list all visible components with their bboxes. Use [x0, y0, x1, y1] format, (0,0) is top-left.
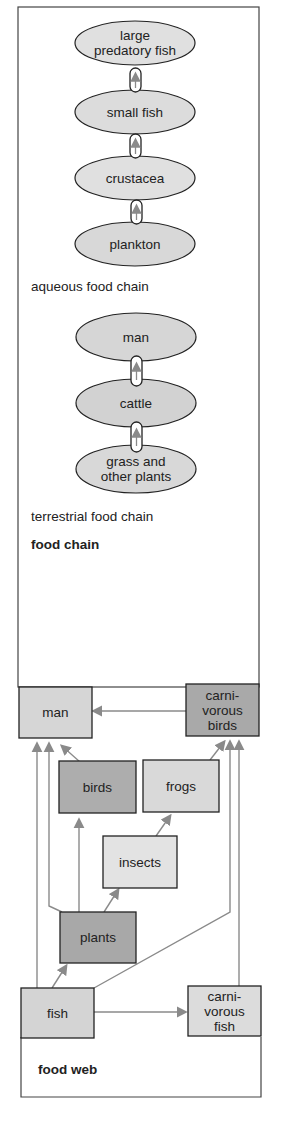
label-carnivorous-birds: carni- vorous birds [186, 684, 259, 736]
label-cattle: cattle [76, 379, 196, 427]
title-food-web: food web [38, 1062, 97, 1077]
label-birds: birds [59, 761, 136, 813]
label-plankton: plankton [75, 222, 195, 266]
title-food-chain: food chain [31, 537, 99, 552]
caption-aqueous: aqueous food chain [31, 279, 149, 294]
label-fish: fish [21, 988, 94, 1038]
label-grass: grass and other plants [76, 445, 196, 493]
label-man-chain: man [76, 313, 196, 361]
label-man: man [19, 687, 92, 738]
label-frogs: frogs [143, 760, 219, 812]
label-small-fish: small fish [75, 90, 195, 134]
label-insects: insects [103, 836, 177, 888]
label-large-predatory-fish: large predatory fish [75, 21, 195, 65]
label-carnivorous-fish: carni- vorous fish [188, 986, 261, 1036]
caption-terrestrial: terrestrial food chain [31, 509, 153, 524]
label-crustacea: crustacea [75, 156, 195, 200]
label-plants: plants [60, 912, 136, 963]
